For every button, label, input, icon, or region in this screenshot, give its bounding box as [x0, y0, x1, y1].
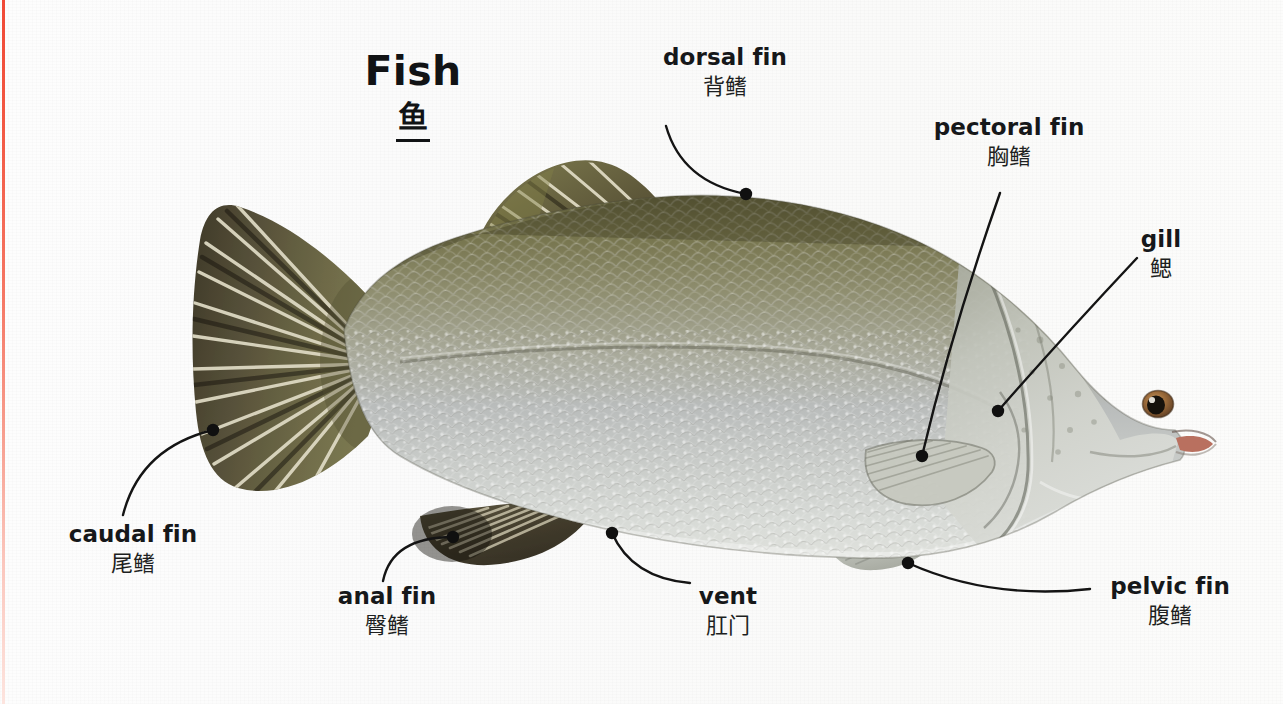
leader-dot-pectoral-fin	[916, 450, 928, 462]
label-gill-english: gill	[1124, 226, 1198, 252]
label-gill-chinese: 鳃	[1124, 252, 1198, 285]
label-anal-fin-english: anal fin	[330, 583, 444, 609]
label-pelvic-fin-chinese: 腹鳍	[1106, 599, 1234, 632]
label-caudal-fin-english: caudal fin	[66, 521, 200, 547]
leader-dot-gill	[992, 405, 1004, 417]
leader-line-dorsal-fin	[666, 126, 746, 194]
leader-dot-pelvic-fin	[902, 557, 914, 569]
leader-line-pelvic-fin	[908, 563, 1090, 592]
label-pelvic-fin: pelvic fin腹鳍	[1106, 573, 1234, 632]
fish-illustration	[0, 0, 1283, 704]
label-anal-fin-chinese: 臀鳍	[330, 609, 444, 642]
label-anal-fin: anal fin臀鳍	[330, 583, 444, 642]
label-pectoral-fin: pectoral fin胸鳍	[932, 114, 1086, 173]
leader-line-caudal-fin	[123, 430, 213, 515]
leader-dot-dorsal-fin	[740, 188, 752, 200]
label-dorsal-fin: dorsal fin背鳍	[663, 44, 787, 103]
title-chinese: 鱼	[396, 97, 430, 142]
label-caudal-fin: caudal fin尾鳍	[66, 521, 200, 580]
label-dorsal-fin-english: dorsal fin	[663, 44, 787, 70]
label-vent-english: vent	[682, 583, 774, 609]
label-vent: vent肛门	[682, 583, 774, 642]
leader-dot-anal-fin	[447, 531, 459, 543]
label-pelvic-fin-english: pelvic fin	[1106, 573, 1234, 599]
page-title: Fish 鱼	[328, 50, 498, 142]
title-english: Fish	[328, 50, 498, 93]
diagram-canvas: Fish 鱼 dorsal fin背鳍pectoral fin胸鳍gill鳃ca…	[0, 0, 1283, 704]
label-gill: gill鳃	[1124, 226, 1198, 285]
label-vent-chinese: 肛门	[682, 609, 774, 642]
label-caudal-fin-chinese: 尾鳍	[66, 547, 200, 580]
label-pectoral-fin-chinese: 胸鳍	[932, 140, 1086, 173]
eye	[1143, 391, 1174, 418]
label-pectoral-fin-english: pectoral fin	[932, 114, 1086, 140]
label-dorsal-fin-chinese: 背鳍	[663, 70, 787, 103]
leader-dot-caudal-fin	[207, 424, 219, 436]
leader-dot-vent	[606, 527, 618, 539]
